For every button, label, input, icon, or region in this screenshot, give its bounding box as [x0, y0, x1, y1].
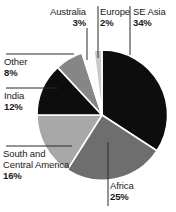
- slice-label-australia-value: 3%: [30, 17, 86, 28]
- slice-label-south-and-central-america: South and Central America 16%: [3, 148, 77, 182]
- pie-chart-figure: Australia 3% Europe 2% SE Asia 34% Other…: [0, 0, 176, 212]
- slice-label-other: Other 8%: [4, 56, 48, 78]
- slice-label-se-asia-value: 34%: [133, 17, 175, 28]
- slice-label-africa-value: 25%: [110, 191, 160, 202]
- slice-label-other-name: Other: [4, 56, 48, 67]
- slice-label-india-name: India: [4, 90, 48, 101]
- slice-label-other-value: 8%: [4, 67, 48, 78]
- slice-label-australia: Australia 3%: [30, 6, 86, 28]
- slice-label-south-and-central-america-value: 16%: [3, 170, 77, 181]
- slice-label-se-asia: SE Asia 34%: [133, 6, 175, 28]
- slice-label-south-and-central-america-name: South and Central America: [3, 148, 77, 170]
- slice-label-india: India 12%: [4, 90, 48, 112]
- slice-label-india-value: 12%: [4, 101, 48, 112]
- slice-label-africa: Africa 25%: [110, 180, 160, 202]
- slice-label-africa-name: Africa: [110, 180, 160, 191]
- slice-label-se-asia-name: SE Asia: [133, 6, 175, 17]
- slice-label-australia-name: Australia: [30, 6, 86, 17]
